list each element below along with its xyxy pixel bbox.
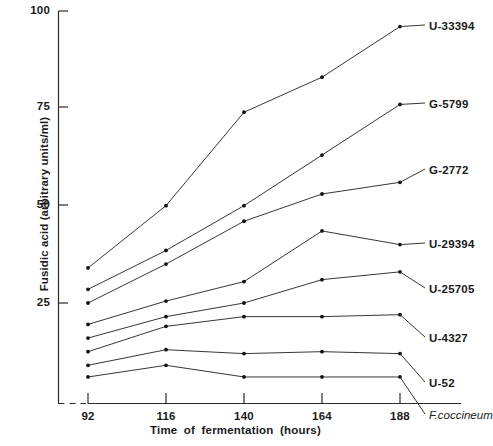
leader-line [400,103,425,104]
series-label-u-25705: U-25705 [429,283,475,295]
data-point [242,219,246,223]
data-point [86,287,90,291]
data-point [164,204,168,208]
x-axis-ticks [88,393,400,404]
series-u-4327 [86,313,402,354]
x-tick-label-140: 140 [214,410,274,422]
series-label-g-5799: G-5799 [429,98,469,110]
data-point [164,299,168,303]
series-label-g-2772: G-2772 [429,164,469,176]
leader-line [400,272,425,288]
x-tick-label-92: 92 [58,410,118,422]
data-point [320,75,324,79]
data-point [164,249,168,253]
data-point [320,315,324,319]
series-label-u-4327: U-4327 [429,332,468,344]
data-point [242,375,246,379]
data-point [242,352,246,356]
y-tick-label-100: 100 [14,4,50,16]
leader-line [400,243,425,245]
data-point [86,350,90,354]
series-layer [86,25,402,379]
series-label-u-52: U-52 [429,377,455,389]
series-f-coccineum [86,363,402,378]
series-g-2772 [86,180,402,304]
leader-line [400,169,425,182]
series-label-u-33394: U-33394 [429,20,475,32]
x-tick-label-116: 116 [136,410,196,422]
data-point [164,315,168,319]
data-point [86,336,90,340]
series-line [88,231,400,324]
series-line [88,182,400,303]
series-line [88,315,400,352]
series-u-52 [86,348,402,367]
data-point [164,363,168,367]
series-u-33394 [86,25,402,270]
data-point [164,348,168,352]
leader-line [400,354,425,382]
y-axis-ticks [59,11,69,303]
series-label-u-29394: U-29394 [429,238,475,250]
data-point [86,301,90,305]
series-line [88,104,400,289]
data-point [320,229,324,233]
data-point [86,323,90,327]
data-point [320,350,324,354]
data-point [242,315,246,319]
data-point [242,301,246,305]
x-tick-label-188: 188 [370,410,430,422]
data-point [320,375,324,379]
data-point [242,204,246,208]
data-point [86,363,90,367]
leader-lines-layer [400,25,425,414]
leader-line [400,377,425,414]
series-label-f-coccineum: F.coccineum [429,409,493,421]
data-point [164,324,168,328]
data-point [164,262,168,266]
data-point [242,280,246,284]
x-tick-label-164: 164 [292,410,352,422]
data-point [242,110,246,114]
series-line [88,27,400,268]
data-point [320,192,324,196]
leader-line [400,315,425,337]
y-axis-title: Fusidic acid (arbitrary units/ml) [38,74,50,334]
leader-line [400,25,425,27]
x-axis-title: Time of fermentation (hours) [0,424,471,436]
data-point [86,375,90,379]
data-point [320,278,324,282]
data-point [86,266,90,270]
series-u-29394 [86,229,402,326]
data-point [320,153,324,157]
series-g-5799 [86,103,402,292]
